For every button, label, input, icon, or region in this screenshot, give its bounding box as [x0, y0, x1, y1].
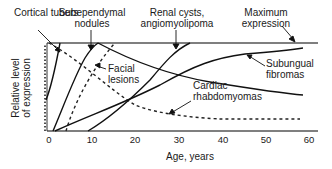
series-subependymal-nodules: [53, 43, 98, 131]
x-tick-20: 20: [130, 134, 141, 145]
arrow-subungual-fibromas: [249, 56, 265, 66]
label-cardiac-rhabdomyomas: Cardiac rhabdomyomas: [193, 80, 237, 102]
arrow-head-renal-cysts: [173, 44, 179, 49]
label-max-expression: Maximum expression: [236, 7, 296, 29]
arrow-head-max-expression: [289, 36, 295, 42]
x-tick-0: 0: [46, 134, 51, 145]
arrow-head-facial-lesions: [95, 63, 100, 68]
x-tick-10: 10: [87, 134, 98, 145]
arrow-head-subungual-fibromas: [247, 55, 252, 59]
x-axis-label: Age, years: [155, 151, 225, 162]
y-axis-label: Relative level of expression: [10, 58, 34, 118]
label-subependymal-nodules: Subependymal nodules: [58, 7, 126, 29]
label-facial-lesions: Facial lesions: [108, 63, 144, 85]
x-tick-50: 50: [261, 134, 272, 145]
label-cortical-tubers: Cortical tubers: [14, 7, 54, 18]
x-tick-40: 40: [218, 134, 229, 145]
label-renal-cysts: Renal cysts, angiomyolipoma: [140, 7, 214, 29]
x-tick-30: 30: [174, 134, 185, 145]
x-tick-60: 60: [304, 134, 315, 145]
label-subungual-fibromas: Subungual fibromas: [266, 58, 318, 80]
arrow-head-cardiac-rhabdomyomas: [169, 109, 175, 114]
series-renal-cysts: [88, 43, 190, 131]
